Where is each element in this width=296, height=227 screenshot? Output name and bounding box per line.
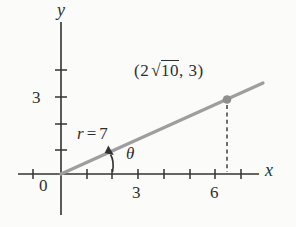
radius-variable: r [77, 124, 84, 143]
point-label-close: , 3) [179, 61, 204, 80]
y-axis-label: y [57, 1, 65, 19]
radius-annotation: r=7 [77, 125, 108, 142]
radicand-value: 10 [161, 61, 179, 80]
point-label-open: (2 [134, 61, 149, 80]
x-tick-label-3: 3 [132, 184, 141, 201]
figure-canvas: y x 0 3 3 6 r=7 θ (2√10, 3) [0, 0, 296, 227]
x-tick-label-6: 6 [210, 184, 219, 201]
origin-label: 0 [39, 177, 48, 194]
radius-value: 7 [99, 124, 108, 143]
point-dot [223, 95, 232, 104]
y-tick-label-3: 3 [32, 89, 41, 106]
radical-sign-icon: √ [151, 61, 161, 80]
radius-equals-sign: = [87, 124, 97, 143]
x-axis-label: x [265, 161, 273, 179]
point-coordinates-label: (2√10, 3) [134, 62, 204, 79]
angle-theta-label: θ [126, 145, 134, 162]
